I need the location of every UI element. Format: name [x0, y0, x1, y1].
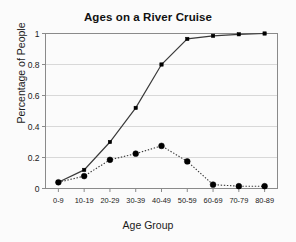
data-point	[108, 140, 111, 143]
x-tick-label: 60-69	[204, 196, 223, 205]
data-point	[237, 33, 240, 36]
x-axis-ticks	[58, 189, 264, 193]
plot-area: 00.20.40.60.81 0-910-1920-2930-3940-4950…	[0, 0, 296, 242]
y-tick-label: 0.2	[28, 153, 40, 163]
y-tick-label: 0.8	[28, 60, 40, 70]
data-point	[133, 151, 139, 157]
data-point	[159, 143, 165, 149]
data-point	[184, 158, 190, 164]
data-point	[107, 157, 113, 163]
series-line-cumulative	[58, 34, 264, 183]
data-point	[211, 34, 214, 37]
data-point	[186, 37, 189, 40]
gridlines	[46, 34, 278, 158]
y-axis-ticks	[42, 34, 46, 189]
data-point	[160, 63, 163, 66]
x-tick-label: 80-89	[255, 196, 274, 205]
y-tick-label: 0	[35, 184, 40, 194]
data-point	[82, 168, 85, 171]
series-line-distribution	[58, 146, 264, 186]
chart-container: Ages on a River Cruise Percentage of Peo…	[0, 0, 296, 242]
y-tick-label: 0.4	[28, 122, 40, 132]
data-point	[263, 32, 266, 35]
x-tick-labels: 0-910-1920-2930-3940-4950-5960-6970-7980…	[53, 196, 274, 205]
data-point	[236, 183, 242, 189]
data-point	[55, 179, 61, 185]
x-tick-label: 30-39	[126, 196, 145, 205]
x-tick-label: 0-9	[53, 196, 64, 205]
y-tick-label: 1	[35, 29, 40, 39]
x-tick-label: 70-79	[229, 196, 248, 205]
x-tick-label: 10-19	[75, 196, 94, 205]
data-point	[81, 173, 87, 179]
x-tick-label: 40-49	[152, 196, 171, 205]
x-tick-label: 50-59	[178, 196, 197, 205]
data-point	[210, 182, 216, 188]
x-tick-label: 20-29	[100, 196, 119, 205]
axes-frame	[46, 34, 278, 189]
data-point	[262, 183, 268, 189]
plot-frame	[46, 34, 278, 189]
data-point	[134, 106, 137, 109]
y-tick-label: 0.6	[28, 91, 40, 101]
data-series-layer	[55, 32, 267, 189]
y-tick-labels: 00.20.40.60.81	[28, 29, 40, 194]
